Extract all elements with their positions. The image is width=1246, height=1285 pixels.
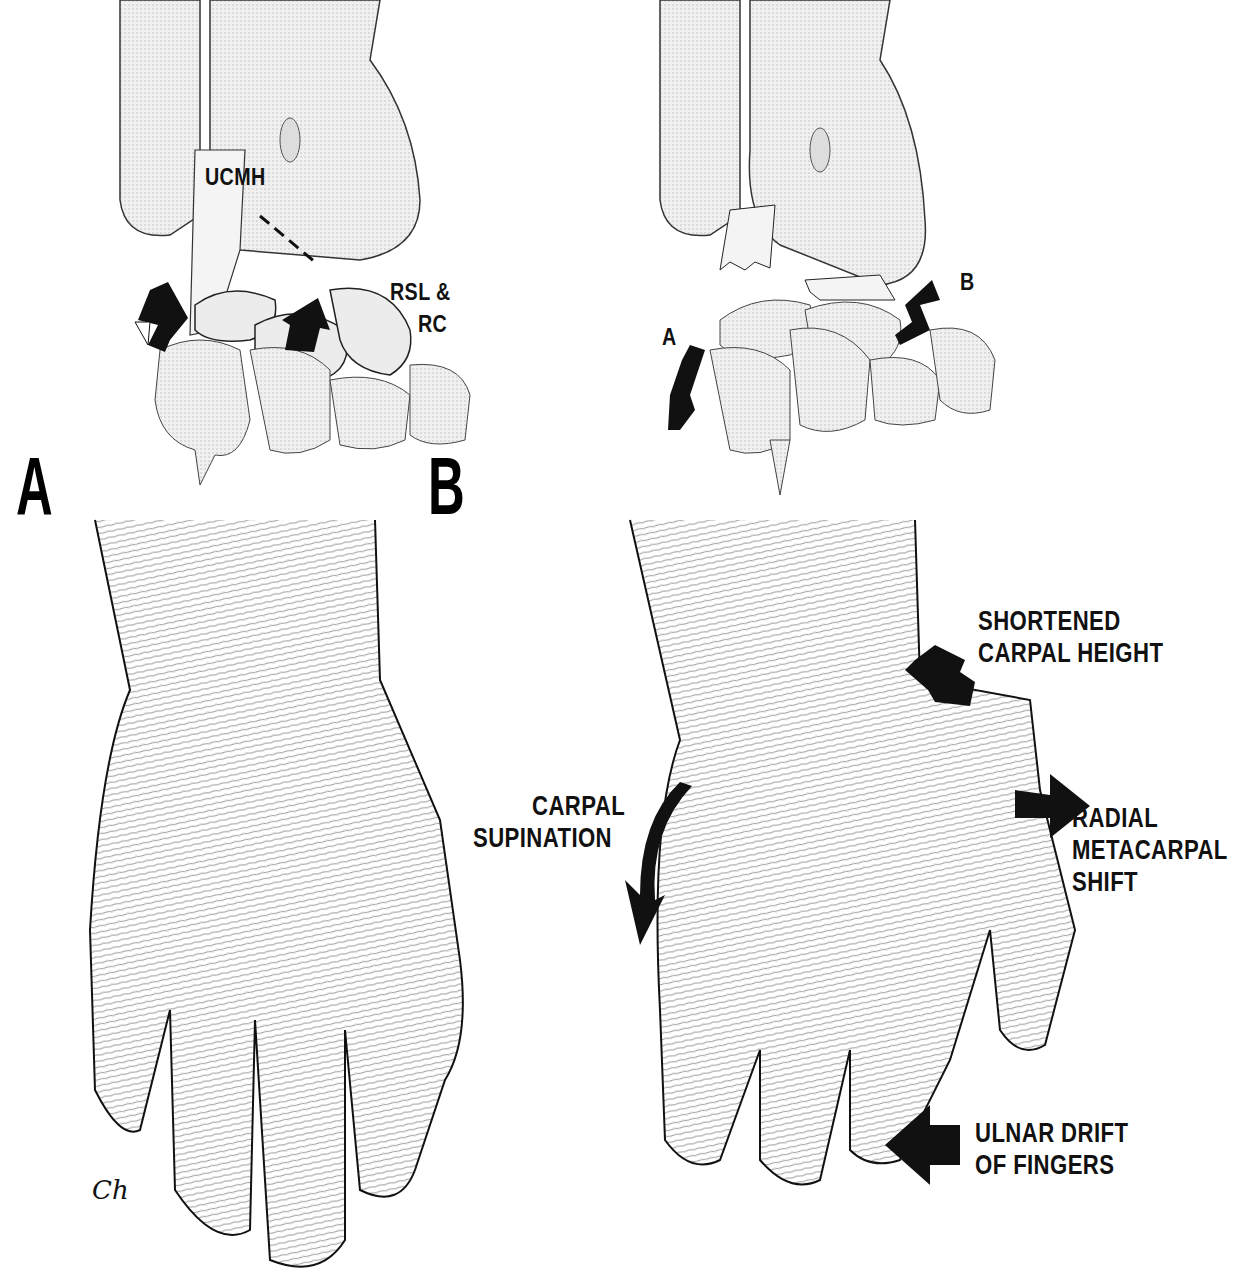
artist-signature: Ch xyxy=(92,1175,129,1205)
label-radial-shift-1: RADIAL xyxy=(1072,805,1158,832)
label-radial-shift-3: SHIFT xyxy=(1072,869,1138,896)
panel-letter-b: B xyxy=(428,445,465,527)
label-shortened-carpal-height-1: SHORTENED xyxy=(978,608,1121,635)
panel-letter-a: A xyxy=(16,445,53,527)
panel-a-carpal-bones xyxy=(120,0,470,485)
label-radial-shift-2: METACARPAL xyxy=(1072,837,1228,864)
hand-a-drawing xyxy=(90,520,463,1267)
label-arrow-a: A xyxy=(662,325,677,349)
label-ulnar-drift-2: OF FINGERS xyxy=(975,1152,1114,1179)
label-carpal-supination-2: SUPINATION xyxy=(473,825,612,852)
label-shortened-carpal-height-2: CARPAL HEIGHT xyxy=(978,640,1163,667)
label-rsl: RSL & xyxy=(390,280,451,304)
label-carpal-supination-1: CARPAL xyxy=(532,793,625,820)
label-arrow-b: B xyxy=(960,270,975,294)
panel-b-carpal-bones xyxy=(660,0,995,495)
label-ucmh: UCMH xyxy=(205,165,266,189)
label-ulnar-drift-1: ULNAR DRIFT xyxy=(975,1120,1128,1147)
label-rc: RC xyxy=(418,312,447,336)
